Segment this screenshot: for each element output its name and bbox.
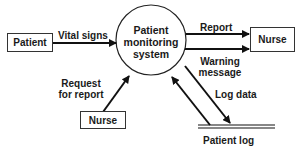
warning-label-line-2: message (190, 67, 250, 78)
vital-signs-label: Vital signs (58, 30, 108, 41)
nurse-entity-bottom: Nurse (80, 111, 126, 129)
diagram-canvas (0, 0, 299, 152)
warning-label: Warning message (190, 56, 250, 78)
nurse-entity-right: Nurse (250, 27, 295, 52)
request-label: Request for report (56, 78, 106, 100)
patient-log-label: Patient log (203, 135, 254, 146)
process-label-line-3: system (121, 48, 181, 60)
report-label: Report (200, 22, 232, 33)
patient-entity: Patient (7, 33, 53, 52)
log-to-process-arrow (172, 77, 210, 125)
warning-label-line-1: Warning (190, 56, 250, 67)
log-data-label: Log data (215, 89, 257, 100)
request-label-line-2: for report (56, 89, 106, 100)
request-arrow (103, 76, 129, 112)
process-label-line-1: Patient (121, 24, 181, 36)
process-label: Patient monitoring system (121, 24, 181, 60)
request-label-line-1: Request (56, 78, 106, 89)
process-label-line-2: monitoring (121, 36, 181, 48)
